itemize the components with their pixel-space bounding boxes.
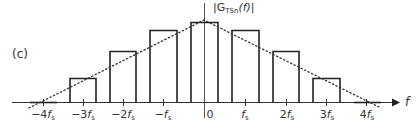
- tick-coef: −3: [71, 108, 87, 121]
- x-axis-label: f: [405, 95, 409, 109]
- tick-label-plus-2fs: 2fs: [280, 108, 295, 122]
- tick-sub: s: [131, 114, 135, 122]
- y-axis-label-tail: (f)|: [238, 1, 254, 14]
- bar-minus-2fs: [110, 52, 136, 103]
- tick-sub: s: [51, 114, 55, 122]
- spectrum-figure: (c) |GTSn(f)| f −4fs −3fs −2fs −fs 0 fs …: [0, 0, 417, 131]
- tick-label-minus-2fs: −2fs: [111, 108, 135, 122]
- tick-label-plus-3fs: 3fs: [320, 108, 335, 122]
- bar-minus-3fs: [70, 79, 96, 103]
- y-axis-label: |GTSn(f)|: [213, 1, 255, 15]
- tick-coef: 2: [280, 108, 287, 121]
- tick-coef: 0: [207, 108, 214, 121]
- tick-label-plus-4fs: 4fs: [360, 108, 375, 122]
- tick-coef: 3: [320, 108, 327, 121]
- tick-sub: s: [371, 114, 375, 122]
- tick-label-minus-3fs: −3fs: [71, 108, 95, 122]
- tick-sub: s: [331, 114, 335, 122]
- tick-label-0: 0: [207, 108, 214, 121]
- tick-label-plus-1fs: fs: [241, 108, 249, 122]
- tick-sub: s: [91, 114, 95, 122]
- tick-coef: −4: [31, 108, 47, 121]
- panel-label: (c): [12, 47, 28, 61]
- tick-label-minus-1fs: −fs: [155, 108, 172, 122]
- tick-coef: −2: [111, 108, 127, 121]
- tick-sub: s: [168, 114, 172, 122]
- tick-label-minus-4fs: −4fs: [31, 108, 55, 122]
- tick-coef: 4: [360, 108, 367, 121]
- y-axis-label-main: |G: [213, 1, 225, 14]
- tick-sub: s: [245, 114, 249, 122]
- x-axis-arrow-icon: [392, 99, 400, 107]
- bar-plus-3fs: [313, 79, 340, 103]
- spectrum-bars: [30, 23, 381, 103]
- bar-minus-1fs: [150, 31, 177, 103]
- bar-plus-2fs: [273, 52, 299, 103]
- y-axis-label-sub: TSn: [225, 7, 238, 15]
- tick-sub: s: [291, 114, 295, 122]
- tick-coef: −: [155, 108, 164, 121]
